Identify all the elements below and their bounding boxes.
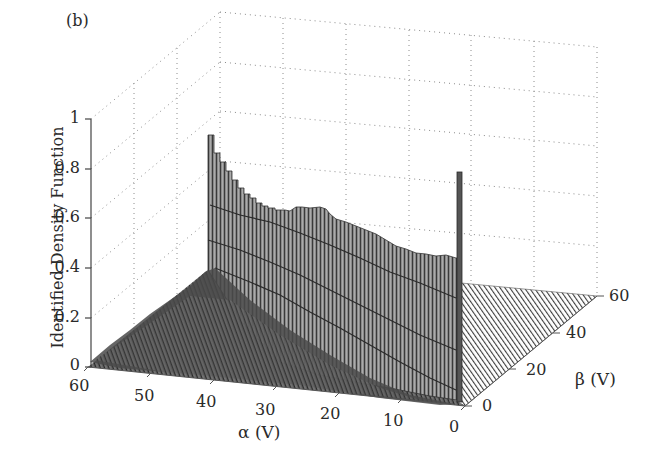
z-axis-label: Identified Density Function xyxy=(48,123,67,353)
beta-tick-40: 40 xyxy=(566,323,586,342)
alpha-tick-30: 30 xyxy=(255,400,275,419)
alpha-tick-20: 20 xyxy=(320,404,340,423)
z-tick-0: 0 xyxy=(50,355,80,374)
surface-plot xyxy=(0,0,645,455)
beta-tick-60: 60 xyxy=(609,286,629,305)
alpha-tick-40: 40 xyxy=(196,392,216,411)
beta-tick-0: 0 xyxy=(482,396,492,415)
panel-label: (b) xyxy=(66,11,89,30)
alpha-tick-0: 0 xyxy=(449,417,459,436)
alpha-tick-60: 60 xyxy=(69,376,89,395)
spike-bar xyxy=(457,172,462,402)
beta-axis-label: β (V) xyxy=(575,369,616,389)
alpha-tick-50: 50 xyxy=(134,386,154,405)
alpha-axis-label: α (V) xyxy=(238,422,280,442)
beta-tick-20: 20 xyxy=(526,360,546,379)
z-axis xyxy=(85,119,91,367)
alpha-tick-10: 10 xyxy=(383,411,403,430)
